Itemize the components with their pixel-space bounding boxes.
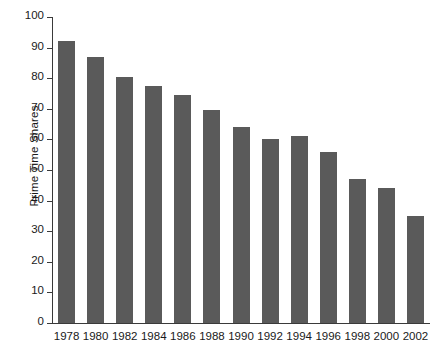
bar [233,127,250,323]
y-axis-tick-mark [47,292,52,293]
y-axis-tick-mark [47,323,52,324]
bar [291,136,308,323]
x-axis-tick-label: 1994 [286,330,312,342]
y-axis-tick-mark [47,109,52,110]
y-axis-tick-mark [47,201,52,202]
x-axis-tick-label: 1978 [54,330,80,342]
bar [87,57,104,323]
y-axis-tick-label: 100 [25,9,44,21]
y-axis-tick-mark [47,170,52,171]
bar [203,110,220,323]
y-axis-tick-label: 50 [31,162,44,174]
x-axis-tick-label: 1982 [112,330,138,342]
bar [407,216,424,323]
y-axis-tick-label: 10 [31,284,44,296]
y-axis-tick-label: 30 [31,223,44,235]
plot-area: 0102030405060708090100 19781980198219841… [52,17,430,323]
y-axis-tick-mark [47,78,52,79]
x-axis-tick-label: 1988 [199,330,225,342]
x-axis-tick-label: 1984 [141,330,167,342]
x-axis-tick-label: 1990 [228,330,254,342]
y-axis-tick-mark [47,48,52,49]
bar [145,86,162,323]
y-axis-tick-label: 40 [31,193,44,205]
bar [349,179,366,323]
bar-chart-figure: Prime Time Shares 0102030405060708090100… [0,0,447,355]
x-axis-line [52,323,430,324]
y-axis-tick-label: 60 [31,131,44,143]
y-axis-tick-mark [47,139,52,140]
y-axis-tick-label: 70 [31,101,44,113]
y-axis-tick-mark [47,262,52,263]
y-axis-tick-label: 90 [31,40,44,52]
y-axis-tick-label: 20 [31,254,44,266]
x-axis-tick-label: 1998 [345,330,371,342]
bar [58,41,75,323]
x-axis-tick-label: 1992 [257,330,283,342]
y-axis-tick-mark [47,231,52,232]
y-axis-tick-mark [47,17,52,18]
y-axis-line [52,17,53,323]
y-axis-tick-label: 0 [38,315,44,327]
x-axis-tick-label: 1980 [83,330,109,342]
y-axis-tick-label: 80 [31,70,44,82]
x-axis-tick-label: 1986 [170,330,196,342]
bar [378,188,395,323]
x-axis-tick-label: 1996 [315,330,341,342]
bar [320,152,337,323]
x-axis-tick-label: 2000 [374,330,400,342]
bar [174,95,191,323]
bar [116,77,133,323]
bar [262,139,279,323]
x-axis-tick-label: 2002 [403,330,429,342]
